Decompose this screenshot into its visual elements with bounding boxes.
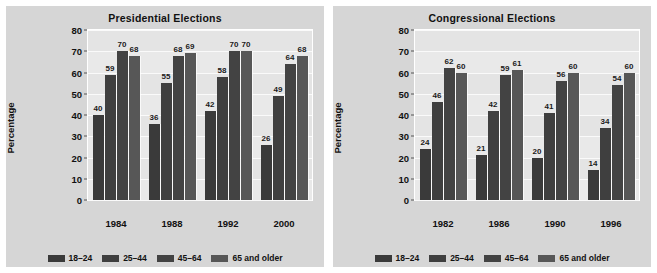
y-tick-label: 10 (71, 173, 82, 184)
bar: 60 (568, 73, 579, 201)
y-axis-label: Percentage (5, 102, 16, 153)
y-tick-mark (84, 115, 87, 116)
legend-label: 65 and older (559, 253, 609, 263)
legend-label: 45–64 (505, 253, 529, 263)
bar-value-label: 24 (421, 138, 430, 147)
bar-groups: 24466260214259612041566014345460 (415, 30, 639, 200)
y-tick-label: 20 (398, 152, 409, 163)
bar-value-label: 42 (489, 100, 498, 109)
y-tick-mark (84, 72, 87, 73)
y-tick-mark (411, 157, 414, 158)
legend-item[interactable]: 25–44 (102, 253, 147, 263)
y-tick-label: 10 (398, 173, 409, 184)
bar-group: 36556869 (149, 30, 196, 200)
bar-value-label: 70 (230, 40, 239, 49)
bar: 46 (432, 102, 443, 200)
y-tick-mark (84, 157, 87, 158)
legend-swatch-icon (157, 255, 174, 262)
y-axis-ticks: 01020304050607080 (377, 30, 415, 200)
bar-value-label: 40 (94, 104, 103, 113)
bar: 64 (285, 64, 296, 200)
x-tick-label: 1984 (91, 218, 141, 229)
y-tick-mark (84, 51, 87, 52)
chart-panel-presidential: Presidential Elections Percentage 010203… (6, 6, 324, 267)
y-axis-label: Percentage (332, 102, 343, 153)
bar: 68 (297, 56, 308, 201)
bar-value-label: 49 (274, 85, 283, 94)
y-tick-label: 50 (398, 88, 409, 99)
bar-value-label: 60 (457, 62, 466, 71)
y-tick-label: 20 (71, 152, 82, 163)
x-tick-label: 1992 (203, 218, 253, 229)
y-tick-label: 40 (71, 110, 82, 121)
bar-value-label: 41 (545, 102, 554, 111)
y-tick-mark (84, 93, 87, 94)
bar: 42 (488, 111, 499, 200)
y-tick-label: 70 (398, 46, 409, 57)
bar: 70 (117, 51, 128, 200)
y-tick-mark (84, 178, 87, 179)
y-tick-mark (84, 200, 87, 201)
legend-label: 25–44 (123, 253, 147, 263)
bar-groups: 40597068365568694258707026496468 (88, 30, 312, 200)
legend-item[interactable]: 65 and older (211, 253, 282, 263)
legend-label: 18–24 (69, 253, 93, 263)
bar-value-label: 21 (477, 144, 486, 153)
bar: 41 (544, 113, 555, 200)
chart-panel-congressional: Congressional Elections Percentage 01020… (333, 6, 651, 267)
y-tick-mark (84, 136, 87, 137)
legend-item[interactable]: 18–24 (375, 253, 420, 263)
chart-title: Congressional Elections (333, 12, 651, 24)
legend-swatch-icon (375, 255, 392, 262)
bar-value-label: 68 (174, 45, 183, 54)
bar: 69 (185, 53, 196, 200)
legend-swatch-icon (429, 255, 446, 262)
legend-item[interactable]: 25–44 (429, 253, 474, 263)
legend-item[interactable]: 45–64 (484, 253, 529, 263)
legend-label: 18–24 (396, 253, 420, 263)
bar-value-label: 61 (513, 59, 522, 68)
gridline (88, 200, 312, 201)
x-axis-labels: 1982198619901996 (415, 218, 639, 234)
legend-swatch-icon (48, 255, 65, 262)
x-tick-label: 1996 (586, 218, 636, 229)
legend-item[interactable]: 45–64 (157, 253, 202, 263)
bar-group: 40597068 (93, 30, 140, 200)
bar-value-label: 60 (625, 62, 634, 71)
bar-value-label: 36 (150, 113, 159, 122)
bar-group: 42587070 (205, 30, 252, 200)
legend: 18–2425–4445–6465 and older (333, 253, 651, 263)
bar: 36 (149, 124, 160, 201)
bar: 49 (273, 96, 284, 200)
bar: 34 (600, 128, 611, 200)
bar-value-label: 56 (557, 70, 566, 79)
x-tick-label: 1982 (418, 218, 468, 229)
bar: 60 (624, 73, 635, 201)
bar: 60 (456, 73, 467, 201)
bar: 14 (588, 170, 599, 200)
bar-group: 20415660 (532, 30, 579, 200)
bar-value-label: 68 (130, 45, 139, 54)
bar-value-label: 68 (298, 45, 307, 54)
bar-value-label: 46 (433, 91, 442, 100)
y-tick-mark (411, 93, 414, 94)
bar-value-label: 70 (242, 40, 251, 49)
bar-value-label: 34 (601, 117, 610, 126)
figure-root: Presidential Elections Percentage 010203… (0, 0, 657, 273)
bar: 59 (105, 75, 116, 200)
x-tick-label: 1988 (147, 218, 197, 229)
bar: 62 (444, 68, 455, 200)
y-tick-label: 60 (398, 67, 409, 78)
legend-item[interactable]: 18–24 (48, 253, 93, 263)
x-tick-label: 1990 (530, 218, 580, 229)
gridline (415, 200, 639, 201)
bar-value-label: 55 (162, 72, 171, 81)
legend-item[interactable]: 65 and older (538, 253, 609, 263)
bar-value-label: 58 (218, 66, 227, 75)
bar-value-label: 14 (589, 159, 598, 168)
bar: 56 (556, 81, 567, 200)
x-tick-label: 1986 (474, 218, 524, 229)
y-tick-label: 80 (71, 25, 82, 36)
y-tick-label: 50 (71, 88, 82, 99)
y-tick-label: 70 (71, 46, 82, 57)
